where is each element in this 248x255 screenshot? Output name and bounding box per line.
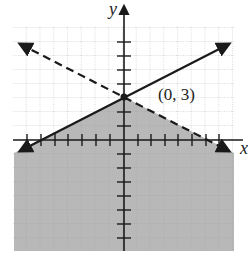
x-axis-label: x bbox=[240, 138, 248, 159]
vertex-label: (0, 3) bbox=[158, 85, 195, 105]
graph-canvas bbox=[0, 0, 248, 255]
y-axis-label: y bbox=[109, 0, 117, 20]
vertex-point bbox=[121, 94, 128, 101]
